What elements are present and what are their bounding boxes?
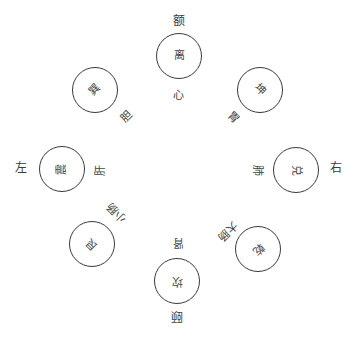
kidney-label: 肾	[158, 234, 198, 250]
left-label: 左	[1, 160, 41, 176]
lung-label: 肺	[249, 150, 265, 190]
trigram-dui-label: 兑	[274, 148, 318, 192]
right-label: 右	[316, 160, 356, 176]
trigram-kan-circle: 坎	[154, 258, 200, 304]
trigram-zhen-label: 震	[40, 147, 84, 191]
trigram-li-circle: 离	[156, 33, 202, 79]
liver-label: 肝	[93, 150, 109, 190]
trigram-xun-label: 巽	[64, 59, 126, 121]
heart-label: 心	[158, 88, 198, 104]
trigram-kan-label: 坎	[155, 259, 199, 303]
chin-label: 颐	[157, 308, 197, 324]
trigram-li-label: 离	[157, 34, 201, 78]
trigram-kun-circle: 坤	[237, 67, 283, 113]
trigram-dui-circle: 兑	[273, 147, 319, 193]
trigram-gen-circle: 艮	[69, 221, 115, 267]
trigram-zhen-circle: 震	[39, 146, 85, 192]
trigram-qian-circle: 乾	[235, 226, 281, 272]
trigram-gen-label: 艮	[61, 213, 123, 275]
forehead-label: 额	[159, 13, 199, 29]
bagua-diagram: 离 坤 兑 乾 坎 艮 震 巽 额 颐 左 右 心 胃 肺 大肠 肾 小肠 肝 …	[0, 0, 359, 339]
trigram-xun-circle: 巽	[72, 67, 118, 113]
